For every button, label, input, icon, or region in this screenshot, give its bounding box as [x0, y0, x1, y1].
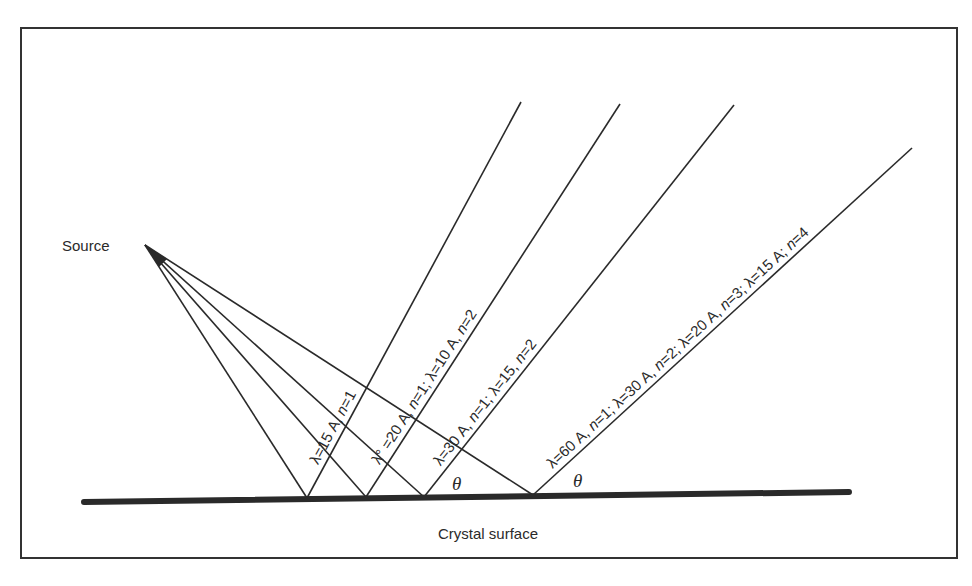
crystal-surface-line [84, 492, 849, 502]
incident-ray-1 [145, 245, 307, 498]
theta-label-1: θ [452, 473, 461, 494]
diagram-canvas: λ=15 A, n=1λ° =20 A, n=1; λ=10 A, n=2λ=3… [0, 0, 972, 586]
ray-labels: λ=15 A, n=1λ° =20 A, n=1; λ=10 A, n=2λ=3… [306, 223, 812, 471]
crystal-surface-caption: Crystal surface [438, 525, 538, 542]
theta-label-2: θ [573, 470, 582, 491]
figure-frame [21, 28, 957, 558]
theta-labels: θθ [452, 470, 582, 494]
ray-label-4: λ=60 A, n=1; λ=30 A, n=2; λ=20 A, n=3; λ… [543, 223, 812, 471]
reflected-ray-4 [533, 148, 912, 495]
incident-ray-2 [145, 245, 366, 497]
incident-ray-4 [145, 245, 533, 495]
ray-label-1: λ=15 A, n=1 [306, 387, 359, 466]
incident-rays [145, 245, 533, 498]
source-label: Source [62, 237, 110, 254]
reflected-ray-1 [307, 102, 521, 498]
bragg-diagram: λ=15 A, n=1λ° =20 A, n=1; λ=10 A, n=2λ=3… [0, 0, 972, 586]
